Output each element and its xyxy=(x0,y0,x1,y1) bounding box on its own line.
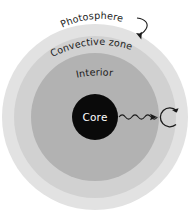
label-core: Core xyxy=(82,111,107,123)
solar-structure-diagram: Photosphere Convective zone Interior Cor… xyxy=(0,0,192,214)
photosphere-pointer-arrow xyxy=(137,18,147,36)
sun-cross-section-svg: Photosphere Convective zone Interior Cor… xyxy=(0,0,192,214)
